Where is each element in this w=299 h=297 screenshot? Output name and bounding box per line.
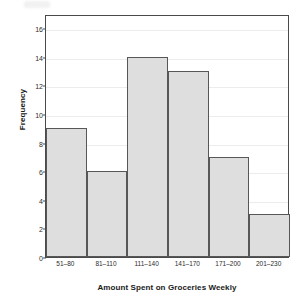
y-axis-tick-label: 16 — [27, 26, 43, 33]
x-axis-tick-label: 141–170 — [167, 261, 208, 268]
bar — [209, 157, 250, 257]
y-axis-tick-mark — [43, 172, 46, 173]
y-axis-tick-label: 8 — [27, 140, 43, 147]
y-axis-tick-mark — [43, 57, 46, 58]
x-axis-tick-label: 81–110 — [86, 261, 127, 268]
histogram-chart: Frequency 0246810121416 51–8081–110111–1… — [0, 0, 299, 297]
y-axis-tick-mark — [43, 200, 46, 201]
bar — [87, 171, 128, 257]
x-axis-tick-label: 171–200 — [208, 261, 249, 268]
y-axis-tick-mark — [43, 86, 46, 87]
x-axis-tick-label: 201–230 — [248, 261, 289, 268]
y-axis-tick-label: 6 — [27, 169, 43, 176]
y-axis-tick-label: 4 — [27, 197, 43, 204]
bars-group — [46, 16, 288, 257]
y-axis-tick-mark — [43, 258, 46, 259]
x-axis-tick-label: 51–80 — [45, 261, 86, 268]
x-axis-tick-label: 111–140 — [126, 261, 167, 268]
y-axis-tick-mark — [43, 115, 46, 116]
y-axis-tick-labels: 0246810121416 — [25, 15, 43, 258]
y-axis-tick-label: 2 — [27, 226, 43, 233]
y-axis-tick-label: 10 — [27, 112, 43, 119]
x-axis-title: Amount Spent on Groceries Weekly — [45, 283, 289, 292]
y-axis-tick-label: 0 — [27, 255, 43, 262]
bar — [127, 57, 168, 257]
y-axis-tick-label: 14 — [27, 54, 43, 61]
bar — [46, 128, 87, 257]
plot-area — [45, 15, 289, 258]
bar — [249, 214, 290, 257]
y-axis-tick-mark — [43, 143, 46, 144]
y-axis-tick-mark — [43, 229, 46, 230]
bar — [168, 71, 209, 257]
y-axis-tick-mark — [43, 29, 46, 30]
x-axis-tick-labels: 51–8081–110111–140141–170171–200201–230 — [45, 261, 289, 273]
y-axis-tick-label: 12 — [27, 83, 43, 90]
